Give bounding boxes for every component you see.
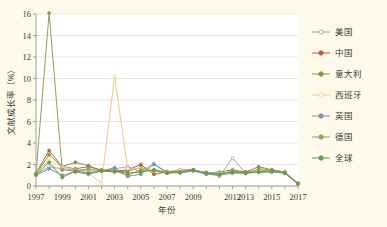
data-point xyxy=(87,164,90,167)
legend-marker-icon xyxy=(319,30,323,34)
data-point xyxy=(126,167,129,170)
legend-label: 德国 xyxy=(335,132,353,142)
data-point xyxy=(113,166,116,169)
x-axis-title: 年份 xyxy=(158,205,176,215)
x-axis-tick-label: 2007 xyxy=(159,192,176,202)
x-axis-tick-label: 1997 xyxy=(28,192,45,202)
data-point xyxy=(61,168,64,171)
y-axis-tick-label: 14 xyxy=(23,31,32,41)
data-point xyxy=(100,181,103,184)
data-point xyxy=(218,173,221,176)
data-point xyxy=(270,169,273,172)
y-axis-tick-label: 0 xyxy=(27,181,31,191)
data-point xyxy=(35,173,38,176)
legend-marker-icon xyxy=(319,51,323,55)
legend-label: 全球 xyxy=(335,153,353,163)
data-point xyxy=(113,75,116,78)
data-point xyxy=(152,168,155,171)
growth-rate-line-chart: 0246810121416199719992001200320052007200… xyxy=(0,0,387,227)
legend-label: 美国 xyxy=(335,27,353,37)
data-point xyxy=(283,172,286,175)
y-axis-title: 文献成长率（%） xyxy=(6,65,16,136)
data-point xyxy=(192,168,195,171)
y-axis-tick-label: 16 xyxy=(23,9,32,19)
data-point xyxy=(231,171,234,174)
chart-container: 0246810121416199719992001200320052007200… xyxy=(0,0,387,227)
data-point xyxy=(179,171,182,174)
x-axis-tick-label: 2015 xyxy=(263,192,280,202)
data-point xyxy=(257,167,260,170)
data-point xyxy=(297,182,300,185)
data-point xyxy=(244,172,247,175)
y-axis-tick-label: 10 xyxy=(23,74,32,84)
data-point xyxy=(126,172,129,175)
x-axis-tick-label: 2003 xyxy=(106,192,123,202)
legend-marker-icon xyxy=(319,93,323,97)
x-axis-tick-label: 2013 xyxy=(237,192,254,202)
legend-label: 中国 xyxy=(335,48,353,58)
data-point xyxy=(87,172,90,175)
y-axis-tick-label: 8 xyxy=(27,95,31,105)
y-axis-tick-label: 12 xyxy=(23,52,32,62)
data-point xyxy=(231,157,234,160)
data-point xyxy=(61,176,64,179)
data-point xyxy=(139,163,142,166)
y-axis-tick-label: 2 xyxy=(27,160,31,170)
data-point xyxy=(257,171,260,174)
legend-label: 英国 xyxy=(335,111,353,121)
data-point xyxy=(74,169,77,172)
data-point xyxy=(48,149,51,152)
y-axis-tick-label: 6 xyxy=(27,117,31,127)
data-point xyxy=(205,172,208,175)
data-point xyxy=(166,172,169,175)
data-point xyxy=(74,161,77,164)
data-point xyxy=(152,173,155,176)
legend-marker-icon xyxy=(319,72,323,76)
data-point xyxy=(152,163,155,166)
data-point xyxy=(87,167,90,170)
data-point xyxy=(48,153,51,156)
x-axis-tick-label: 2001 xyxy=(80,192,97,202)
legend-marker-icon xyxy=(319,135,323,139)
data-point xyxy=(139,171,142,174)
x-axis-tick-label: 2005 xyxy=(132,192,149,202)
x-axis-tick-label: 2017 xyxy=(290,192,307,202)
x-axis-tick-label: 1999 xyxy=(54,192,71,202)
legend-label: 西班牙 xyxy=(335,90,362,100)
legend-marker-icon xyxy=(319,156,323,160)
data-point xyxy=(48,11,51,14)
data-point xyxy=(100,169,103,172)
legend-label: 意大利 xyxy=(335,69,362,79)
data-point xyxy=(48,161,51,164)
data-point xyxy=(113,169,116,172)
legend-marker-icon xyxy=(319,114,323,118)
data-point xyxy=(48,167,51,170)
x-axis-tick-label: 2009 xyxy=(185,192,202,202)
